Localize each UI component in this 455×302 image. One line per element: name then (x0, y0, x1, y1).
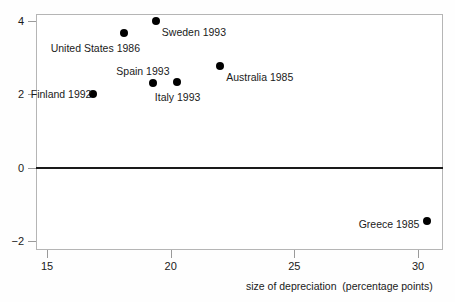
x-axis-title: size of depreciation (percentage points) (246, 281, 433, 292)
data-point-label: Finland 1992 (31, 89, 92, 100)
y-axis-tick-label: 4 (0, 16, 24, 27)
x-axis-tick-label: 20 (151, 261, 191, 272)
data-point-label: Spain 1993 (116, 66, 169, 77)
x-axis-tick-mark (171, 250, 172, 258)
data-point-label: Sweden 1993 (162, 27, 226, 38)
x-axis-tick-label: 15 (27, 261, 67, 272)
data-point[interactable] (149, 79, 157, 87)
y-axis-tick-mark (28, 168, 36, 169)
scatter-chart-figure: 420−2 15202530 size of depreciation (per… (0, 0, 455, 302)
x-axis-tick-label: 25 (274, 261, 314, 272)
y-axis-tick-mark (28, 21, 36, 22)
y-axis-tick-mark (28, 241, 36, 242)
data-point[interactable] (152, 17, 160, 25)
data-point-label: Greece 1985 (359, 219, 420, 230)
data-point[interactable] (423, 217, 431, 225)
zero-reference-line (36, 167, 443, 169)
y-axis-tick-label: 2 (0, 89, 24, 100)
data-point[interactable] (120, 29, 128, 37)
data-point-label: Italy 1993 (155, 92, 201, 103)
x-axis-tick-mark (294, 250, 295, 258)
y-axis-tick-label: 0 (0, 163, 24, 174)
x-axis-tick-mark (47, 250, 48, 258)
data-point[interactable] (216, 62, 224, 70)
data-point-label: Australia 1985 (226, 72, 293, 83)
data-point-label: United States 1986 (51, 43, 140, 54)
y-axis-tick-label: −2 (0, 236, 24, 247)
x-axis-tick-label: 30 (398, 261, 438, 272)
x-axis-tick-mark (418, 250, 419, 258)
